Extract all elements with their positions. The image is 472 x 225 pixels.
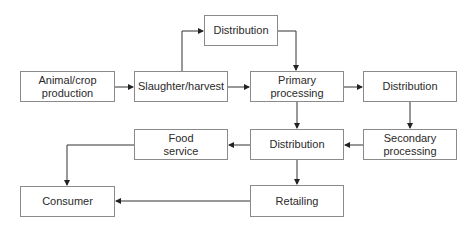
node-label: Food service — [164, 132, 199, 158]
node-label: Distribution — [213, 24, 268, 37]
node-retailing: Retailing — [250, 185, 344, 217]
node-label: Animal/crop production — [38, 74, 96, 100]
node-label: Secondary processing — [383, 132, 436, 158]
node-label: Retailing — [276, 195, 319, 208]
node-distribution-mid: Distribution — [250, 129, 344, 160]
node-primary-processing: Primary processing — [250, 71, 344, 102]
node-animal-crop-production: Animal/crop production — [20, 71, 115, 102]
node-consumer: Consumer — [20, 186, 115, 217]
node-slaughter-harvest: Slaughter/harvest — [134, 71, 228, 102]
node-label: Consumer — [42, 195, 93, 208]
node-label: Primary processing — [270, 74, 323, 100]
node-label: Distribution — [269, 138, 324, 151]
node-food-service: Food service — [134, 129, 228, 160]
node-label: Slaughter/harvest — [138, 80, 224, 93]
node-secondary-processing: Secondary processing — [363, 129, 457, 160]
node-distribution-right: Distribution — [363, 71, 457, 102]
node-label: Distribution — [382, 80, 437, 93]
node-distribution-top: Distribution — [204, 15, 278, 46]
